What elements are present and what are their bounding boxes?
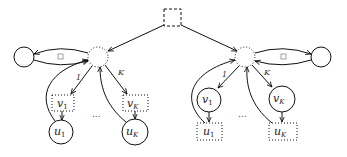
left-label-1: 1 xyxy=(76,73,81,82)
left-label-K: K xyxy=(117,68,125,77)
left-vK-label: vK xyxy=(127,97,139,111)
left-loop-label-box xyxy=(58,54,63,59)
left-u1-label: u1 xyxy=(54,125,66,139)
edge-root-left xyxy=(108,25,164,51)
right-subtree: 1 K v1 vK u1 uK ... xyxy=(192,47,331,140)
right-v1-label: v1 xyxy=(202,93,213,107)
left-edge-hub-to-leaf xyxy=(34,49,88,54)
left-ellipsis: ... xyxy=(92,109,101,119)
right-vK-label: vK xyxy=(273,92,285,106)
right-hub-node xyxy=(235,47,255,67)
diagram-canvas: 1 K v1 vK u1 uK ... 1 K v1 xyxy=(0,0,347,157)
right-edge-hub-to-leaf xyxy=(255,49,311,54)
right-edge-leaf-to-hub xyxy=(255,60,311,65)
edge-root-right xyxy=(181,25,237,51)
right-label-1: 1 xyxy=(222,70,227,79)
left-edge-hub-v1 xyxy=(71,66,92,94)
right-uK-label: uK xyxy=(274,125,287,139)
left-hub-node xyxy=(88,47,108,67)
left-subtree: 1 K v1 vK u1 uK ... xyxy=(14,47,148,145)
right-u1-label: u1 xyxy=(203,125,215,139)
root-node xyxy=(164,9,181,26)
right-ellipsis: ... xyxy=(238,109,247,119)
right-label-K: K xyxy=(263,68,271,77)
right-edge-u1-hub xyxy=(192,60,235,123)
right-leaf-node xyxy=(311,47,331,67)
left-leaf-node xyxy=(14,47,34,67)
left-edge-u1-hub xyxy=(46,60,88,121)
right-loop-label-box xyxy=(281,54,286,59)
left-v1-label: v1 xyxy=(57,97,68,111)
left-uK-label: uK xyxy=(126,125,139,139)
